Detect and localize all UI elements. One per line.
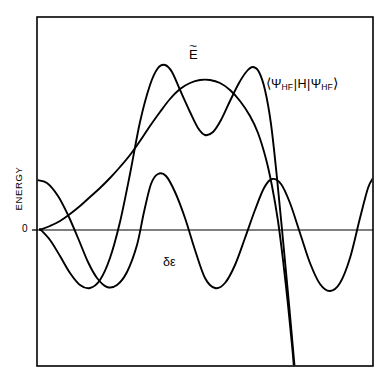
energy-curve-figure: ENERGY 0 ~ E ⟨ΨHF|H|ΨHF⟩ δε — [0, 0, 392, 382]
psi-subscript-right: HF — [321, 82, 333, 92]
curve-label-e-tilde: ~ E — [189, 48, 198, 61]
curve-label-delta-epsilon: δε — [163, 256, 176, 269]
curve-label-expectation-value: ⟨ΨHF|H|ΨHF⟩ — [266, 76, 338, 92]
psi-symbol-left: Ψ — [271, 77, 281, 91]
tilde-accent: ~ — [189, 41, 197, 52]
y-axis-title: ENERGY — [13, 159, 24, 219]
ket-close-bracket: ⟩ — [333, 75, 338, 91]
e-tilde-glyph: ~ E — [189, 48, 198, 61]
psi-subscript-left: HF — [281, 82, 293, 92]
psi-symbol-right: Ψ — [311, 77, 321, 91]
y-axis-zero-tick-label: 0 — [22, 223, 28, 234]
